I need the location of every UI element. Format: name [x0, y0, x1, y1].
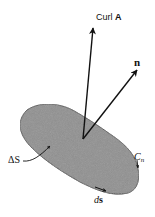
diagram-canvas — [0, 0, 155, 217]
normal-vector-arrow — [83, 70, 137, 139]
contour-label: Cn — [134, 152, 144, 164]
line-element-label: ds — [94, 195, 103, 205]
curl-label: Curl A — [96, 13, 122, 22]
ds-s: s — [99, 194, 103, 205]
curl-vector-symbol: A — [115, 12, 122, 22]
contour-letter: C — [134, 151, 141, 162]
surface-patch — [20, 104, 139, 194]
area-label: ΔS — [8, 155, 20, 165]
normal-label: n — [134, 57, 140, 68]
contour-subscript: n — [141, 156, 145, 164]
curl-text: Curl — [96, 12, 115, 22]
